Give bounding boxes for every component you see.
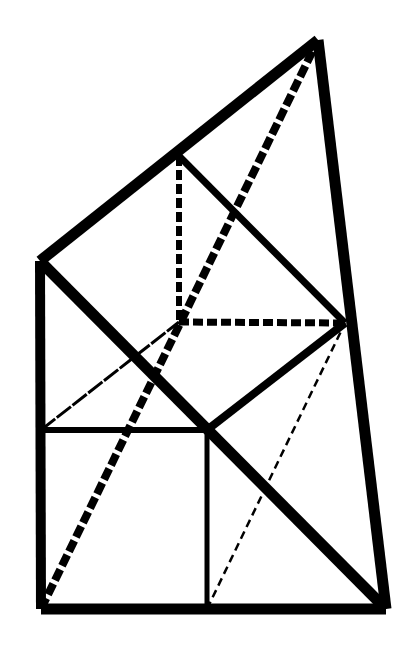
geometry-diagram — [0, 0, 414, 654]
edge-left — [40, 261, 41, 609]
